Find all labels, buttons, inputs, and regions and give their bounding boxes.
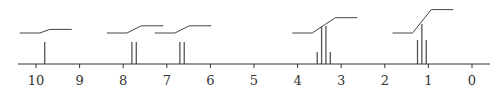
signal-quartet [317,26,330,64]
peak-sticks [45,24,427,64]
tick-label: 5 [250,73,258,88]
x-axis-tick-labels: 109876543210 [28,73,476,88]
tick-label: 2 [381,73,389,88]
integration-curve [155,26,211,33]
tick-label: 7 [163,73,171,88]
signal-triplet [418,24,427,64]
integration-curve [393,10,454,33]
signal-doublet [132,42,136,64]
integration-curves [20,10,454,33]
nmr-spectrum-chart: 109876543210 [0,0,501,92]
integration-curve [107,26,163,33]
tick-label: 9 [75,73,83,88]
tick-label: 6 [206,73,214,88]
integration-curve [20,29,72,33]
signal-doublet [180,42,184,64]
tick-label: 0 [468,73,476,88]
tick-label: 3 [337,73,345,88]
tick-label: 10 [28,73,45,88]
integration-curve [292,18,357,33]
tick-label: 8 [119,73,127,88]
tick-label: 1 [424,73,432,88]
x-axis-ticks [36,64,472,68]
tick-label: 4 [293,73,301,88]
